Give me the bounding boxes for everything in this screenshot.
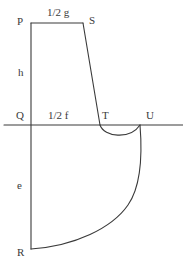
curve-t-u: [100, 125, 140, 135]
point-label-r: R: [17, 247, 24, 258]
point-label-u: U: [146, 110, 154, 121]
curve-u-r: [31, 125, 141, 249]
point-label-p: P: [17, 16, 23, 27]
point-label-t: T: [102, 110, 109, 121]
measurement-upper-side: h: [18, 67, 24, 78]
pattern-diagram: [0, 0, 183, 264]
measurement-lower-side: e: [17, 180, 22, 191]
measurement-middle: 1/2 f: [48, 110, 68, 121]
point-label-q: Q: [16, 110, 24, 121]
slant-edge-s-t: [83, 23, 100, 125]
point-label-s: S: [89, 15, 95, 26]
measurement-top: 1/2 g: [47, 7, 69, 18]
